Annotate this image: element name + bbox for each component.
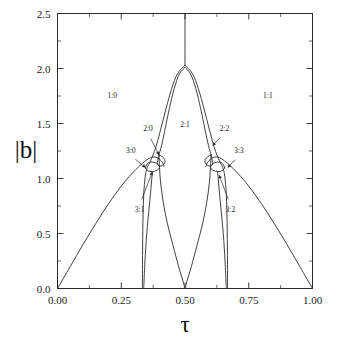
resonance-tongue-plot: 0.000.250.500.751.000.00.51.01.52.02.5 1… xyxy=(0,0,343,344)
plot-curve xyxy=(144,172,153,289)
region-label: 1:0 xyxy=(108,91,118,100)
plot-curve xyxy=(159,67,185,154)
y-tick-label: 0.0 xyxy=(37,283,51,295)
plot-curve xyxy=(185,65,228,288)
plot-curve xyxy=(159,155,185,289)
x-axis-title: τ xyxy=(180,312,189,337)
callout-label: 3:2 xyxy=(226,205,236,214)
y-tick-label: 1.0 xyxy=(37,173,51,185)
y-tick-label: 1.5 xyxy=(37,118,51,130)
x-tick-label: 0.25 xyxy=(112,294,132,306)
figure-container: 0.000.250.500.751.000.00.51.01.52.02.5 1… xyxy=(0,0,343,344)
callout-label: 3:1 xyxy=(135,205,145,214)
callout-label: 2:0 xyxy=(143,124,153,133)
x-tick-label: 0.75 xyxy=(239,294,259,306)
plot-curve xyxy=(185,67,211,154)
x-tick-label: 0.50 xyxy=(175,294,195,306)
callout-label: 3:3 xyxy=(234,146,244,155)
region-label: 1:1 xyxy=(263,91,273,100)
plot-curve xyxy=(218,172,227,289)
axis-tick-labels: 0.000.250.500.751.000.00.51.01.52.02.5 xyxy=(37,8,323,306)
callout-label: 3:0 xyxy=(126,146,136,155)
callout-leader xyxy=(219,175,228,199)
region-label: 2:1 xyxy=(180,120,190,129)
curve-set xyxy=(58,14,313,289)
plot-curve xyxy=(142,65,185,288)
y-axis-title: |b| xyxy=(15,136,38,163)
plot-curve xyxy=(185,155,211,289)
region-label-set: 1:02:11:1 xyxy=(108,91,273,129)
x-tick-label: 1.00 xyxy=(303,294,323,306)
y-tick-label: 0.5 xyxy=(37,228,51,240)
callout-label: 2:2 xyxy=(220,124,230,133)
y-tick-label: 2.5 xyxy=(37,8,51,20)
y-tick-label: 2.0 xyxy=(37,63,51,75)
x-tick-label: 0.00 xyxy=(48,294,68,306)
